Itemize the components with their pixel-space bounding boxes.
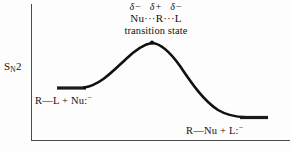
transition-state-species: Nu···R···L bbox=[96, 12, 216, 24]
transition-state-annotation: δ−δ+δ− Nu···R···L transition state bbox=[96, 1, 216, 37]
reactant-charge-superscript: − bbox=[87, 93, 92, 102]
product-label: R—Nu + L:− bbox=[186, 122, 243, 137]
transition-state-caption: transition state bbox=[96, 24, 216, 37]
sn2-energy-diagram: SN2 δ−δ+δ− Nu···R···L transition state R… bbox=[0, 0, 291, 153]
product-label-text: R—Nu + L: bbox=[186, 125, 239, 136]
partial-charge-row: δ−δ+δ− bbox=[96, 1, 216, 12]
curve-ascending-segment bbox=[84, 43, 152, 88]
delta-charge-l: δ− bbox=[170, 1, 182, 12]
delta-charge-nu: δ− bbox=[129, 1, 141, 12]
curve-descending-segment bbox=[152, 43, 246, 117]
reactant-label-text: R—L + Nu: bbox=[35, 95, 87, 106]
delta-charge-r: δ+ bbox=[150, 1, 162, 12]
reactant-label: R—L + Nu:− bbox=[35, 92, 92, 107]
transition-state-marker-dot bbox=[150, 41, 154, 45]
product-charge-superscript: − bbox=[239, 123, 244, 132]
